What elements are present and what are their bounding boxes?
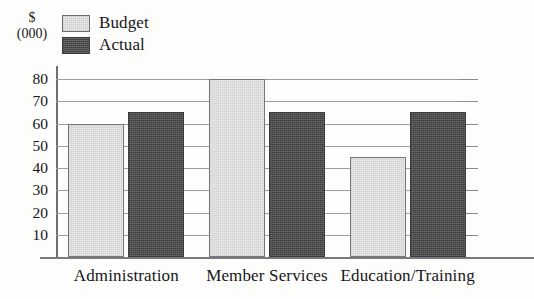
gridline bbox=[56, 79, 478, 80]
x-axis-category-label: Administration bbox=[56, 266, 197, 286]
x-axis-category-label: Member Services bbox=[197, 266, 338, 286]
y-axis-tick-label: 30 bbox=[8, 181, 48, 199]
y-axis-tick-label: 40 bbox=[8, 159, 48, 177]
y-axis-line bbox=[56, 66, 58, 257]
bar-actual-1 bbox=[269, 112, 325, 257]
legend-item-budget: Budget bbox=[62, 12, 149, 34]
tick-mark bbox=[458, 79, 478, 80]
y-axis-tick-label: 20 bbox=[8, 204, 48, 222]
gridline bbox=[56, 101, 478, 102]
y-axis-tick-label: 60 bbox=[8, 115, 48, 133]
y-axis-tick-label: 50 bbox=[8, 137, 48, 155]
y-axis-unit-label: $ (000) bbox=[6, 10, 58, 41]
y-axis-tick-label: 70 bbox=[8, 92, 48, 110]
tick-mark bbox=[458, 101, 478, 102]
x-axis-category-label: Education/Training bbox=[337, 266, 478, 286]
bar-budget-0 bbox=[68, 124, 124, 257]
y-axis-tick-label: 10 bbox=[8, 226, 48, 244]
plot-area bbox=[56, 68, 478, 257]
bar-budget-2 bbox=[350, 157, 406, 257]
legend-item-actual: Actual bbox=[62, 34, 149, 56]
bar-actual-0 bbox=[128, 112, 184, 257]
budget-swatch-icon bbox=[62, 15, 90, 32]
chart-legend: Budget Actual bbox=[62, 12, 149, 56]
x-axis-line bbox=[40, 257, 534, 259]
bar-budget-1 bbox=[209, 79, 265, 257]
y-axis-unit-scale: (000) bbox=[6, 26, 58, 42]
bar-actual-2 bbox=[410, 112, 466, 257]
legend-label-budget: Budget bbox=[99, 13, 149, 33]
y-axis-tick-label: 80 bbox=[8, 70, 48, 88]
y-axis-unit-currency: $ bbox=[6, 10, 58, 26]
legend-label-actual: Actual bbox=[99, 35, 145, 55]
actual-swatch-icon bbox=[62, 37, 90, 54]
